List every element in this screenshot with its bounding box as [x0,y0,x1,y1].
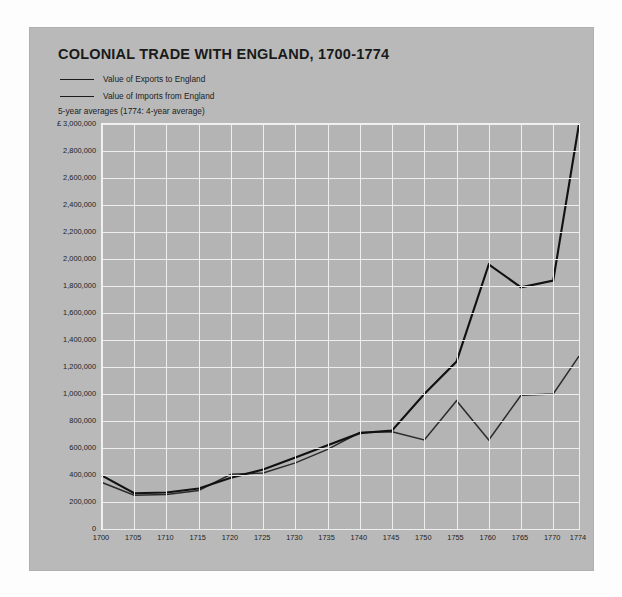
y-axis-tick-label: 800,000 [69,416,96,425]
y-axis-labels: £ 3,000,0002,800,0002,600,0002,400,0002,… [30,123,96,528]
x-axis-tick-label: 1725 [254,533,270,542]
gridline-vertical [553,124,554,529]
y-axis-tick-label: 2,400,000 [63,200,96,209]
gridline-vertical [392,124,393,529]
x-axis-tick-label: 1730 [286,533,302,542]
chart-legend: Value of Exports to England Value of Imp… [60,72,214,106]
gridline-horizontal [102,205,579,206]
legend-item-imports: Value of Imports from England [60,89,214,103]
gridline-horizontal [102,475,579,476]
series-svg [102,124,579,529]
gridline-horizontal [102,259,579,260]
y-axis-tick-label: 2,000,000 [63,254,96,263]
gridline-horizontal [102,529,579,530]
x-axis-tick-label: 1750 [415,533,431,542]
x-axis-tick-label: 1774 [570,533,586,542]
y-axis-tick-label: £ 3,000,000 [57,119,96,128]
x-axis-tick-label: 1770 [544,533,560,542]
x-axis-tick-label: 1755 [447,533,463,542]
legend-label-exports: Value of Exports to England [103,74,205,84]
chart-subtitle: 5-year averages (1774: 4-year average) [58,106,205,116]
gridline-vertical [166,124,167,529]
gridline-horizontal [102,286,579,287]
x-axis-tick-label: 1745 [383,533,399,542]
x-axis-tick-label: 1760 [480,533,496,542]
x-axis-tick-label: 1710 [157,533,173,542]
gridline-vertical [521,124,522,529]
x-axis-tick-label: 1735 [318,533,334,542]
gridline-horizontal [102,178,579,179]
y-axis-tick-label: 400,000 [69,470,96,479]
legend-item-exports: Value of Exports to England [60,72,214,86]
gridline-vertical [134,124,135,529]
x-axis-tick-label: 1700 [93,533,109,542]
series-line-imports [102,124,579,493]
x-axis-tick-label: 1740 [351,533,367,542]
gridline-horizontal [102,448,579,449]
gridline-vertical [489,124,490,529]
x-axis-labels: 1700170517101715172017251730173517401745… [101,533,580,547]
y-axis-tick-label: 600,000 [69,443,96,452]
legend-label-imports: Value of Imports from England [103,91,214,101]
gridline-vertical [579,124,580,529]
y-axis-tick-label: 1,800,000 [63,281,96,290]
legend-line-exports-icon [60,79,94,80]
x-axis-tick-label: 1705 [125,533,141,542]
gridline-horizontal [102,232,579,233]
gridline-horizontal [102,313,579,314]
gridline-vertical [102,124,103,529]
gridline-horizontal [102,124,579,125]
y-axis-tick-label: 1,600,000 [63,308,96,317]
chart-title: COLONIAL TRADE WITH ENGLAND, 1700-1774 [58,46,389,62]
x-axis-tick-label: 1765 [512,533,528,542]
chart-page: COLONIAL TRADE WITH ENGLAND, 1700-1774 V… [0,0,622,597]
plot-area [101,123,580,530]
y-axis-tick-label: 1,400,000 [63,335,96,344]
x-axis-tick-label: 1715 [189,533,205,542]
gridline-vertical [231,124,232,529]
y-axis-tick-label: 1,000,000 [63,389,96,398]
gridline-vertical [360,124,361,529]
gridline-vertical [457,124,458,529]
y-axis-tick-label: 2,800,000 [63,146,96,155]
gridline-horizontal [102,340,579,341]
gridline-horizontal [102,367,579,368]
y-axis-tick-label: 2,600,000 [63,173,96,182]
legend-line-imports-icon [60,96,94,97]
y-axis-tick-label: 2,200,000 [63,227,96,236]
y-axis-tick-label: 1,200,000 [63,362,96,371]
gridline-horizontal [102,502,579,503]
x-axis-tick-label: 1720 [222,533,238,542]
y-axis-tick-label: 200,000 [69,497,96,506]
gridline-horizontal [102,421,579,422]
gridline-vertical [424,124,425,529]
gridline-vertical [295,124,296,529]
gridline-vertical [263,124,264,529]
gridline-horizontal [102,151,579,152]
gridline-vertical [328,124,329,529]
gridline-vertical [199,124,200,529]
gridline-horizontal [102,394,579,395]
chart-card: COLONIAL TRADE WITH ENGLAND, 1700-1774 V… [30,28,593,570]
y-axis-tick-label: 0 [92,524,96,533]
